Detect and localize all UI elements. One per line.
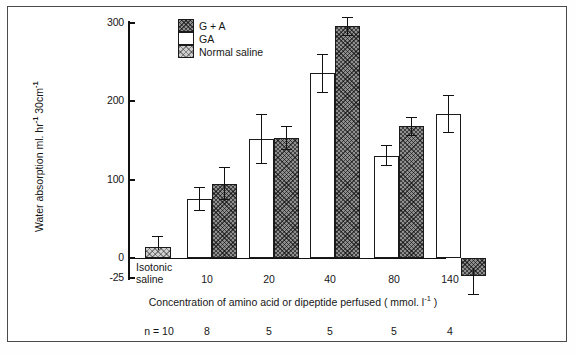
y-tick-label-200: 200 — [84, 94, 124, 106]
y-tick-mark-300 — [129, 22, 135, 24]
legend-item-g-plus-a: G + A — [178, 19, 298, 32]
y-axis-line — [128, 21, 130, 280]
sample-size-140: 4 — [433, 325, 467, 337]
error-bar-cap-upper-gplusa-10 — [219, 167, 230, 168]
x-tick-label-isotonic-line1: Isotonic — [136, 262, 194, 274]
error-bar-cap-lower-gplusa-10 — [219, 199, 230, 200]
error-bar-cap-upper-ga-10 — [194, 187, 205, 188]
error-bar-cap-upper-gplusa-80 — [406, 117, 417, 118]
bar-ga-140 — [436, 114, 461, 258]
error-bar-cap-lower-gplusa-20 — [281, 149, 292, 150]
x-tick-label-140: 140 — [433, 274, 467, 286]
sample-size-20: 5 — [252, 325, 286, 337]
bar-chart-plot: 300 200 100 0 -25 Water absorption ml. h… — [0, 0, 575, 355]
legend-label-normal-saline: Normal saline — [199, 46, 263, 58]
x-axis-title-part1: Concentration of amino acid or dipeptide… — [149, 296, 424, 308]
error-bar-stem-gplusa-80 — [411, 117, 412, 136]
legend-label-ga: GA — [199, 33, 214, 45]
legend-swatch-g-plus-a — [178, 19, 194, 32]
x-tick-label-40: 40 — [313, 274, 347, 286]
error-bar-cap-lower-gplusa-40 — [342, 35, 353, 36]
error-bar-stem-ga-10 — [199, 187, 200, 211]
legend-swatch-normal-saline — [178, 45, 194, 58]
y-axis-title-part1: Water absorption ml. hr — [33, 123, 45, 232]
y-tick-label-0: 0 — [84, 251, 124, 263]
x-tick-label-20: 20 — [252, 274, 286, 286]
x-axis-title: Concentration of amino acid or dipeptide… — [128, 294, 458, 308]
y-tick-mark-100 — [129, 179, 135, 181]
x-tick-label-isotonic-saline: Isotonic saline — [130, 262, 194, 285]
sample-size-40: 5 — [313, 325, 347, 337]
error-bar-cap-lower-ga-140 — [443, 132, 454, 133]
error-bar-stem-ga-20 — [261, 114, 262, 164]
x-axis-title-part2: ) — [431, 296, 437, 308]
sample-size-isotonic-saline: n = 10 — [131, 325, 187, 337]
bar-g-plus-a-80 — [399, 126, 424, 258]
error-bar-stem-gplusa-20 — [286, 126, 287, 150]
legend-item-normal-saline: Normal saline — [178, 45, 298, 58]
error-bar-stem-gplusa-40 — [347, 17, 348, 36]
legend-item-ga: GA — [178, 32, 298, 45]
bar-ga-40 — [310, 73, 335, 258]
y-axis-title-part2: 30cm — [33, 88, 45, 117]
error-bar-stem-ga-140 — [448, 95, 449, 133]
error-bar-stem-saline — [158, 236, 159, 250]
chart-legend: G + A GA Normal saline — [178, 19, 298, 58]
sample-size-10: 8 — [190, 325, 224, 337]
figure-container: 300 200 100 0 -25 Water absorption ml. h… — [0, 0, 575, 355]
error-bar-stem-ga-40 — [322, 54, 323, 93]
legend-swatch-ga — [178, 32, 194, 45]
error-bar-cap-lower-ga-20 — [256, 163, 267, 164]
error-bar-stem-gplusa-140 — [473, 268, 474, 295]
error-bar-stem-ga-80 — [386, 145, 387, 166]
error-bar-cap-upper-ga-140 — [443, 95, 454, 96]
error-bar-cap-saline — [152, 236, 163, 237]
sample-size-80: 5 — [377, 325, 411, 337]
x-axis-title-sup: -1 — [424, 294, 431, 303]
y-tick-mark-0 — [129, 257, 135, 259]
x-tick-label-80: 80 — [377, 274, 411, 286]
error-bar-cap-lower-ga-10 — [194, 210, 205, 211]
y-tick-label-300: 300 — [84, 16, 124, 28]
y-axis-title: Water absorption ml. hr-1 30cm-1 — [31, 57, 45, 257]
x-tick-label-10: 10 — [190, 274, 224, 286]
legend-label-g-plus-a: G + A — [199, 20, 226, 32]
error-bar-stem-gplusa-10 — [224, 167, 225, 200]
error-bar-cap-upper-ga-20 — [256, 114, 267, 115]
error-bar-cap-upper-ga-40 — [317, 54, 328, 55]
bar-g-plus-a-40 — [335, 26, 360, 258]
error-bar-cap-lower-gplusa-140 — [468, 294, 479, 295]
bar-ga-80 — [374, 156, 399, 258]
error-bar-cap-upper-ga-80 — [381, 145, 392, 146]
y-axis-title-sup2: -1 — [31, 81, 40, 88]
y-tick-mark-200 — [129, 100, 135, 102]
error-bar-cap-lower-gplusa-80 — [406, 135, 417, 136]
bar-g-plus-a-20 — [274, 138, 299, 258]
error-bar-cap-lower-ga-40 — [317, 92, 328, 93]
x-tick-label-isotonic-line2: saline — [136, 274, 194, 286]
y-tick-label-neg25: -25 — [84, 271, 124, 283]
error-bar-cap-upper-gplusa-20 — [281, 126, 292, 127]
y-axis-title-sup1: -1 — [31, 117, 40, 124]
error-bar-cap-lower-ga-80 — [381, 165, 392, 166]
y-tick-label-100: 100 — [84, 173, 124, 185]
error-bar-cap-upper-gplusa-40 — [342, 17, 353, 18]
